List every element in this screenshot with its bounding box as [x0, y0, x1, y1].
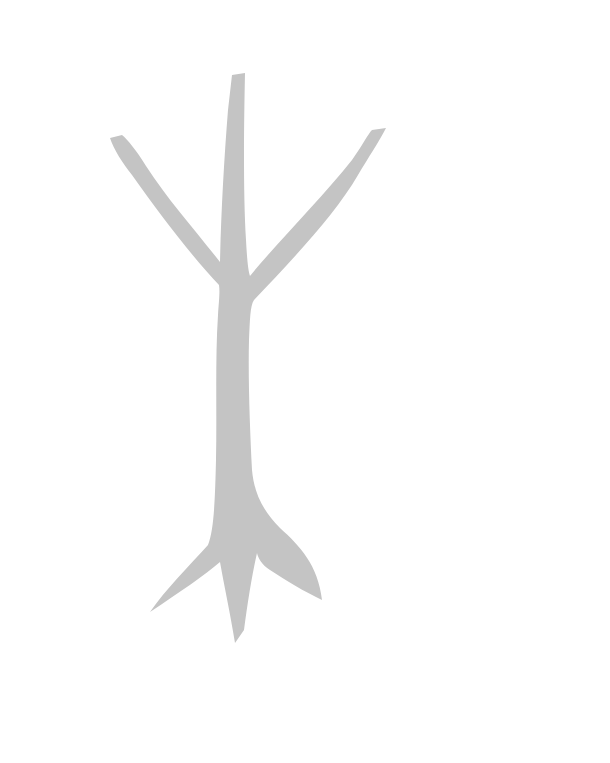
image-canvas: Gray tree / rune-like silhouette on whit… — [0, 0, 610, 763]
tree-rune-shape — [0, 0, 610, 763]
